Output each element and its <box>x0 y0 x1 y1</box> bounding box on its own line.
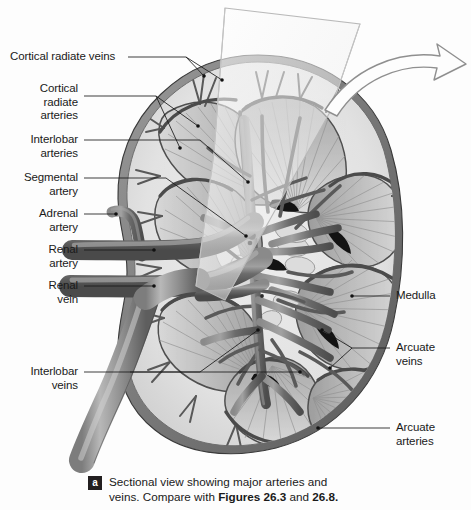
label-renal-vein: Renal vein <box>0 279 78 306</box>
label-interlobar-arteries: Interlobar arteries <box>0 133 78 160</box>
figure-caption: a Sectional view showing major arteries … <box>88 475 460 504</box>
caption-line-1: Sectional view showing major arteries an… <box>109 475 327 488</box>
label-cortical-radiate-arteries: Cortical radiate arteries <box>0 82 78 123</box>
pyramid-right-lower <box>308 368 399 456</box>
caption-badge: a <box>88 476 102 490</box>
label-adrenal-artery: Adrenal artery <box>0 207 78 234</box>
label-interlobar-veins: Interlobar veins <box>0 365 78 392</box>
label-medulla: Medulla <box>396 289 436 303</box>
label-renal-artery: Renal artery <box>0 243 78 270</box>
label-arcuate-veins: Arcuate veins <box>396 341 435 368</box>
caption-line-2-mid: and <box>286 490 312 503</box>
caption-text: Sectional view showing major arteries an… <box>109 475 338 504</box>
label-segmental-artery: Segmental artery <box>0 171 78 198</box>
kidney-body <box>70 8 466 468</box>
caption-figure-ref-2: 26.8. <box>312 490 338 503</box>
label-cortical-radiate-veins: Cortical radiate veins <box>10 50 115 64</box>
caption-figure-ref-1: Figures 26.3 <box>218 490 286 503</box>
label-arcuate-arteries: Arcuate arteries <box>396 421 435 448</box>
caption-line-2-prefix: veins. Compare with <box>109 490 218 503</box>
